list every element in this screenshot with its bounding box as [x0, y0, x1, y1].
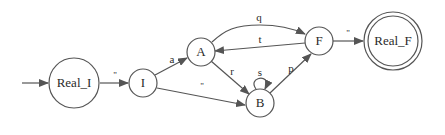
node-label: A: [196, 44, 206, 59]
node-real-i[interactable]: Real_I: [49, 58, 99, 108]
edge-b-self-loop[interactable]: s: [254, 66, 266, 89]
edge-label: a: [170, 53, 175, 65]
node-b[interactable]: B: [246, 89, 274, 117]
edge-label: r: [230, 65, 234, 77]
edge-real-i-to-i[interactable]: ": [100, 70, 128, 83]
node-a[interactable]: A: [187, 38, 215, 66]
edge-label: q: [256, 11, 262, 23]
node-real-f-accepting[interactable]: Real_F: [364, 12, 422, 70]
edge-f-to-real-f[interactable]: ": [333, 28, 363, 41]
edge-label: s: [258, 66, 262, 78]
edge-label: p: [288, 62, 294, 74]
edge-label: ": [113, 70, 117, 80]
edge-label: ": [346, 28, 350, 38]
node-label: Real_I: [57, 75, 92, 90]
node-f[interactable]: F: [305, 27, 333, 55]
node-i[interactable]: I: [129, 69, 157, 97]
node-label: B: [256, 95, 265, 110]
node-label: I: [141, 75, 145, 90]
node-label: F: [315, 33, 322, 48]
edge-i-to-b[interactable]: ": [157, 81, 245, 105]
state-diagram: " a " q t r s p " Real_I: [0, 0, 445, 135]
edge-a-to-b[interactable]: r: [211, 61, 249, 94]
edge-b-to-f[interactable]: p: [270, 54, 311, 93]
edge-i-to-a[interactable]: a: [155, 53, 187, 75]
edge-f-to-a[interactable]: t: [215, 33, 305, 51]
node-label: Real_F: [374, 33, 412, 48]
edge-label: t: [258, 33, 261, 45]
edge-label: ": [200, 81, 204, 91]
